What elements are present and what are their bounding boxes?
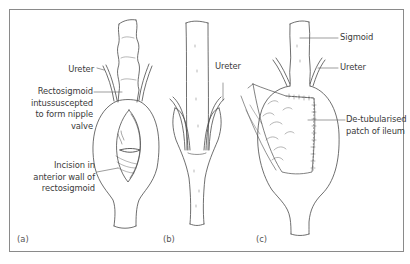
label-a-rectosigmoid-line3: to form nipple (31, 109, 93, 121)
panel-a-ureter-left (106, 65, 117, 100)
panel-c-sigmoid-tube (290, 24, 291, 86)
label-a-rectosigmoid-line2: intussuscepted (31, 98, 93, 110)
panel-b-drawing (170, 21, 224, 225)
leader-a-incision (97, 168, 118, 172)
panel-letter-c: (c) (256, 234, 267, 244)
panel-a-incision (116, 110, 140, 182)
label-c-patch: De-tubularised patch of ileum (346, 114, 407, 137)
label-a-incision-line2: anterior wall of (33, 172, 95, 184)
label-b-ureter: Ureter (215, 61, 241, 73)
label-c-sigmoid: Sigmoid (340, 32, 373, 44)
label-a-incision: Incision in anterior wall of rectosigmoi… (33, 160, 95, 195)
panel-a-sigmoid-colon (118, 24, 120, 102)
label-a-rectosigmoid-line4: valve (31, 121, 93, 133)
panel-c-ureter-left (276, 58, 290, 84)
label-a-ureter: Ureter (68, 64, 94, 76)
label-a-incision-line1: Incision in (33, 160, 95, 172)
leader-a-ureter (97, 68, 104, 70)
label-a-rectosigmoid: Rectosigmoid intussuscepted to form nipp… (31, 86, 93, 132)
label-c-patch-line1: De-tubularised (346, 114, 407, 126)
panel-letter-b: (b) (163, 234, 175, 244)
label-c-patch-line2: patch of ileum (346, 126, 407, 138)
label-a-incision-line3: rectosigmoid (33, 183, 95, 195)
label-c-ureter: Ureter (340, 62, 366, 74)
label-a-rectosigmoid-line1: Rectosigmoid (31, 86, 93, 98)
panel-a-drawing (93, 20, 159, 229)
panel-a-pouch (93, 101, 117, 226)
panel-c-drawing (241, 21, 339, 236)
panel-letter-a: (a) (17, 234, 29, 244)
panel-b-pouch-left (173, 108, 191, 224)
